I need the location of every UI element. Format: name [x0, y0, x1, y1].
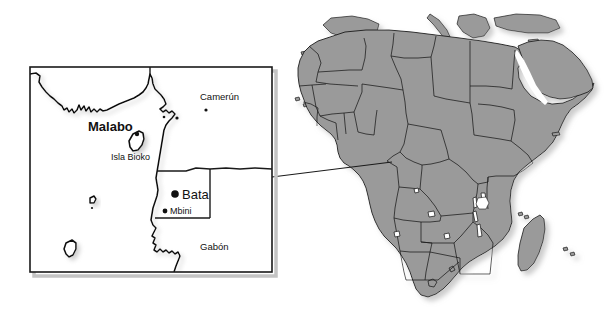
marker-bata	[171, 190, 179, 198]
map-figure: Camerún Malabo Isla Bioko Bata Mbini Gab…	[0, 0, 607, 322]
equatorial-guinea-detail-inset: Camerún Malabo Isla Bioko Bata Mbini Gab…	[30, 67, 276, 276]
marker-yaounde	[204, 108, 207, 111]
principe-islet	[91, 207, 93, 209]
label-mbini: Mbini	[170, 206, 192, 216]
principe-island	[90, 196, 96, 203]
map-canvas: Camerún Malabo Isla Bioko Bata Mbini Gab…	[0, 0, 607, 322]
marker-malabo	[135, 132, 139, 136]
label-isla-bioko: Isla Bioko	[111, 152, 150, 162]
label-cameroon: Camerún	[200, 91, 239, 102]
marker-douala	[175, 116, 178, 119]
socotra-island	[552, 132, 560, 136]
label-malabo: Malabo	[88, 119, 133, 134]
marker-mbini	[163, 209, 168, 214]
label-gabon: Gabón	[200, 241, 229, 252]
label-bata: Bata	[182, 187, 210, 202]
marker-kribi	[163, 116, 166, 119]
